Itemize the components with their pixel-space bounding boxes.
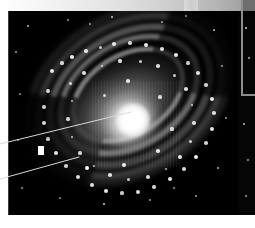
annotation-leader-lines [0,0,255,228]
astronomy-figure [0,0,255,228]
leader-line-spiral-arm [0,157,79,179]
leader-line-nucleus [0,112,131,144]
